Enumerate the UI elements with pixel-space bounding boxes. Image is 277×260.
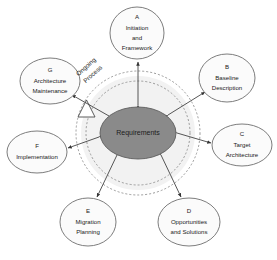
node-a-line-1: Initiation: [126, 24, 149, 31]
node-d[interactable]: D Opportunities and Solutions: [158, 198, 220, 246]
node-a-line-3: Framework: [122, 44, 153, 51]
node-b-letter: B: [225, 63, 229, 70]
node-d-letter: D: [187, 207, 192, 214]
node-f[interactable]: F Implementation: [7, 131, 67, 173]
node-e-line-1: Migration: [75, 218, 100, 225]
node-c-letter: C: [240, 130, 245, 137]
node-b[interactable]: B Baseline Description: [199, 54, 255, 102]
node-g-line-2: Maintenance: [33, 87, 69, 94]
node-e[interactable]: E Migration Planning: [60, 198, 116, 246]
diagram-canvas: Requirements A Initiation and Framework …: [0, 0, 277, 260]
node-c-line-2: Architecture: [226, 151, 259, 158]
center-node-label: Requirements: [116, 129, 160, 137]
node-b-line-2: Description: [212, 84, 242, 91]
node-e-line-2: Planning: [76, 228, 100, 235]
node-c[interactable]: C Target Architecture: [212, 124, 272, 166]
center-node-requirements[interactable]: Requirements: [100, 107, 176, 159]
node-g[interactable]: G Architecture Maintenance: [20, 58, 80, 104]
node-c-line-1: Target: [234, 141, 251, 148]
node-g-line-1: Architecture: [34, 77, 67, 84]
node-d-line-1: Opportunities: [171, 218, 207, 225]
adm-diagram: Requirements A Initiation and Framework …: [0, 0, 277, 260]
node-b-line-1: Baseline: [215, 74, 239, 81]
node-a[interactable]: A Initiation and Framework: [110, 7, 164, 59]
node-f-line-1: Implementation: [16, 153, 58, 160]
node-a-line-2: and: [132, 34, 142, 41]
node-g-letter: G: [48, 66, 53, 73]
node-f-letter: F: [35, 142, 39, 149]
node-d-line-2: and Solutions: [171, 228, 208, 235]
node-e-letter: E: [86, 207, 90, 214]
